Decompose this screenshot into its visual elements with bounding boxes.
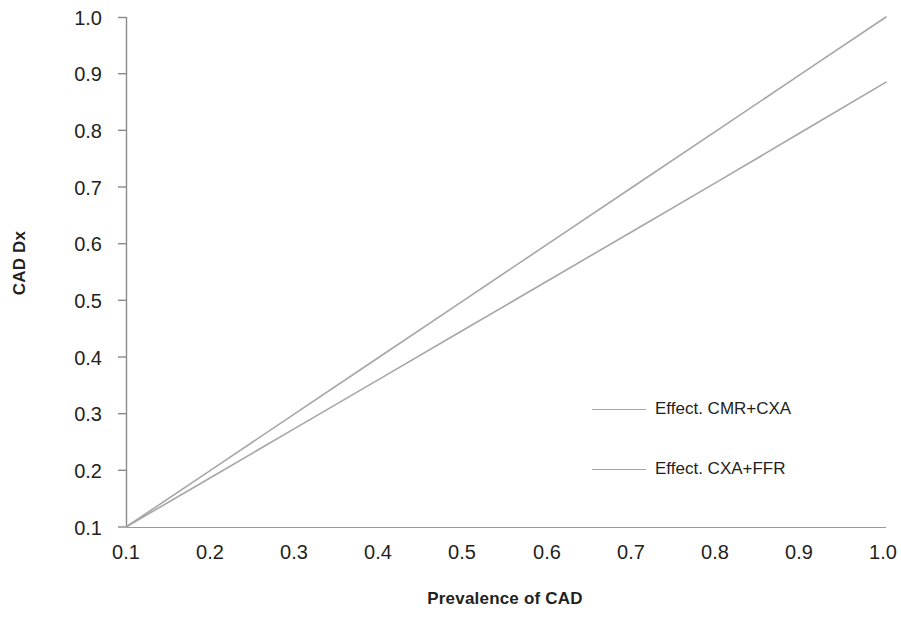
x-tick-label: 0.7 [601,541,661,564]
legend-label-cmr-cxa: Effect. CMR+CXA [655,399,791,419]
x-tick-label: 1.0 [853,541,901,564]
x-tick-label: 0.4 [348,541,408,564]
y-tick-label: 0.1 [44,517,102,540]
legend-label-cxa-ffr: Effect. CXA+FFR [655,459,786,479]
y-tick-label: 0.2 [44,460,102,483]
y-tick-label: 0.8 [44,120,102,143]
y-tick-label: 0.4 [44,347,102,370]
y-tick-label: 0.3 [44,403,102,426]
y-tick-label: 0.6 [44,233,102,256]
y-tick-label: 0.7 [44,177,102,200]
y-tick-label: 0.5 [44,290,102,313]
series-layer [126,17,886,527]
x-axis-title: Prevalence of CAD [0,589,901,609]
legend-swatch-cxa-ffr [592,469,646,470]
y-axis-title: CAD Dx [10,203,30,323]
y-tick-label: 0.9 [44,63,102,86]
x-tick-label: 0.1 [96,541,156,564]
x-tick-label: 0.9 [769,541,829,564]
x-tick-label: 0.3 [264,541,324,564]
x-tick-label: 0.2 [180,541,240,564]
x-tick-label: 0.5 [432,541,492,564]
x-tick-label: 0.6 [517,541,577,564]
legend-swatch-cmr-cxa [592,409,646,410]
series-line-0 [126,17,886,527]
y-axis [118,17,127,527]
y-tick-label: 1.0 [44,7,102,30]
x-tick-label: 0.8 [685,541,745,564]
